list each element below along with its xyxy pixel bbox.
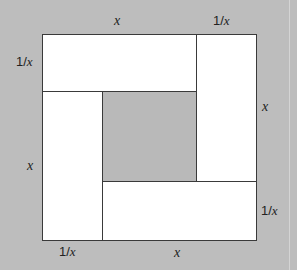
label-right-inv-x: 1/x <box>261 203 278 219</box>
label-bottom-inv-x: 1/x <box>59 244 76 260</box>
label-left-x: x <box>27 158 33 174</box>
right-rectangle <box>196 34 257 182</box>
top-rectangle <box>42 34 197 92</box>
label-top-inv-x: 1/x <box>213 13 230 29</box>
center-square <box>102 91 196 181</box>
label-top-x: x <box>114 13 120 29</box>
label-left-inv-num: 1/ <box>16 54 27 69</box>
label-top-inv-var: x <box>224 13 230 28</box>
label-right-inv-var: x <box>272 203 278 218</box>
label-left-inv-x: 1/x <box>16 54 33 70</box>
label-bottom-inv-num: 1/ <box>59 244 70 259</box>
background-guide-line <box>289 0 290 270</box>
label-bottom-x: x <box>174 245 180 261</box>
label-top-inv-num: 1/ <box>213 13 224 28</box>
label-right-x: x <box>262 99 268 115</box>
label-bottom-inv-var: x <box>70 244 76 259</box>
label-right-inv-num: 1/ <box>261 203 272 218</box>
bottom-rectangle <box>102 181 257 241</box>
label-left-inv-var: x <box>27 54 33 69</box>
left-rectangle <box>42 91 103 241</box>
